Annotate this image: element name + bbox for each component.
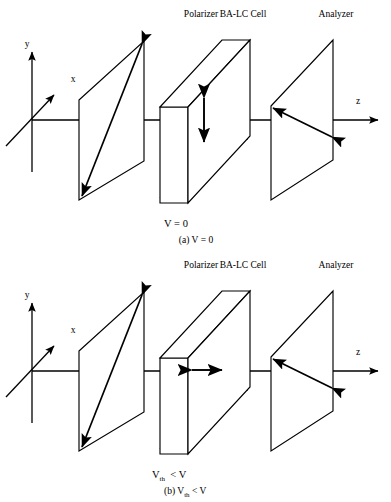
- panel-b-above-threshold: Polarizer BA-LC Cell Analyzer y x z: [0, 251, 391, 502]
- panel-a-zero-voltage: Polarizer BA-LC Cell Analyzer y x z: [0, 0, 391, 251]
- y-axis-label: y: [25, 39, 30, 49]
- x-axis-label: x: [71, 74, 76, 84]
- cell-front-face: [160, 107, 188, 203]
- y-axis-label: y: [25, 290, 30, 300]
- analyzer-plate: [271, 40, 333, 200]
- z-axis-label: z: [356, 347, 360, 357]
- caption-b-prefix: (b): [164, 486, 175, 497]
- z-axis-label: z: [356, 96, 360, 106]
- cell-label: BA-LC Cell: [220, 260, 267, 270]
- cell-front-face: [160, 358, 188, 454]
- state-label-b: Vth < V: [152, 469, 187, 483]
- analyzer-label: Analyzer: [319, 260, 355, 270]
- state-label-b-rest: < V: [165, 469, 187, 480]
- analyzer-label: Analyzer: [319, 9, 355, 19]
- state-label-a: V = 0: [164, 218, 188, 229]
- x-axis-label: x: [71, 325, 76, 335]
- analyzer-plate: [271, 291, 333, 451]
- caption-a: (a) V = 0: [179, 235, 214, 246]
- caption-b: (b) Vth < V: [164, 486, 207, 499]
- figure-root: Polarizer BA-LC Cell Analyzer y x z: [0, 0, 391, 502]
- panel-b-diagram: Polarizer BA-LC Cell Analyzer y x z: [0, 251, 391, 502]
- polarizer-label: Polarizer: [184, 260, 219, 270]
- panel-a-diagram: Polarizer BA-LC Cell Analyzer y x z: [0, 0, 391, 251]
- cell-label: BA-LC Cell: [220, 9, 267, 19]
- polarizer-label: Polarizer: [184, 9, 219, 19]
